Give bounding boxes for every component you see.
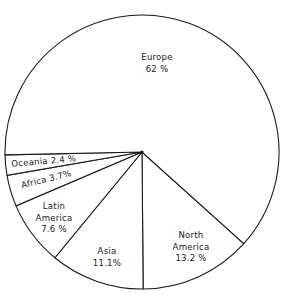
pie-chart: NorthAmerica13.2 %Asia11.1%LatinAmerica7… [0,0,283,293]
slice-label-europe: Europe62 % [141,52,172,74]
pie-center-dot [140,150,143,153]
